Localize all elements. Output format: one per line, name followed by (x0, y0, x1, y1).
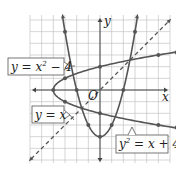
label-line-y-equals-x: y = x (32, 106, 74, 123)
x-axis-label: x (162, 90, 169, 104)
data-point (98, 111, 102, 115)
data-point (98, 65, 102, 69)
graph: x y O y = x2 − 4 y = x y2 = x + 4 (0, 0, 176, 170)
data-point (110, 123, 114, 127)
data-point (63, 30, 67, 34)
data-point (86, 123, 90, 127)
data-point (75, 88, 79, 92)
data-point (156, 53, 160, 57)
data-point (51, 88, 55, 92)
svg-text:y = x2 − 4: y = x2 − 4 (10, 60, 72, 74)
label-parabola-up: y = x2 − 4 (8, 58, 75, 75)
data-point (63, 76, 67, 80)
label-parabola-sideways: y2 = x + 4 (116, 127, 176, 153)
data-point (63, 100, 67, 104)
y-axis-label: y (103, 14, 111, 28)
origin-label: O (88, 89, 98, 103)
data-point (133, 30, 137, 34)
data-point (121, 88, 125, 92)
data-point (98, 135, 102, 139)
data-point (156, 123, 160, 127)
svg-text:y = x: y = x (34, 108, 66, 122)
